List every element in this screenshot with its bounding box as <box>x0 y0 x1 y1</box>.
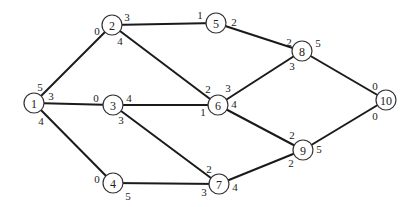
node-label: 7 <box>216 178 222 192</box>
weight-label: 2 <box>289 129 295 141</box>
weight-label: 2 <box>231 16 237 28</box>
weight-label: 3 <box>225 82 231 94</box>
weight-label: 0 <box>93 92 99 104</box>
weight-label: 2 <box>205 83 211 95</box>
weight-label: 4 <box>126 92 132 104</box>
weight-label: 3 <box>48 90 54 102</box>
edge-1-2 <box>34 25 112 103</box>
node-9: 9 <box>293 140 313 160</box>
weight-label: 3 <box>289 60 295 72</box>
weight-label: 4 <box>232 181 238 193</box>
node-10: 10 <box>376 90 396 110</box>
weight-label: 0 <box>94 25 100 37</box>
node-label: 5 <box>213 17 219 31</box>
edge-4-7 <box>113 183 219 184</box>
weight-label: 5 <box>125 190 131 202</box>
edge-6-9 <box>218 105 303 150</box>
weight-label: 5 <box>315 37 321 49</box>
weight-label: 1 <box>197 9 203 21</box>
node-label: 1 <box>31 97 37 111</box>
node-3: 3 <box>103 95 123 115</box>
weight-label: 0 <box>94 173 100 185</box>
weight-label: 1 <box>200 106 206 118</box>
node-label: 8 <box>299 45 305 59</box>
edge-1-4 <box>34 103 113 183</box>
node-label: 9 <box>300 144 306 158</box>
node-label: 10 <box>380 94 392 108</box>
weight-label: 0 <box>372 80 378 92</box>
weight-label: 2 <box>286 36 292 48</box>
weight-label: 4 <box>38 115 44 127</box>
edge-8-10 <box>302 51 386 100</box>
weight-label: 2 <box>206 163 212 175</box>
weight-label: 4 <box>231 98 237 110</box>
weight-label: 3 <box>124 11 130 23</box>
network-diagram: 12345678910 5340340430512231423423522500 <box>0 0 415 207</box>
node-8: 8 <box>292 41 312 61</box>
weight-label: 3 <box>201 186 207 198</box>
weight-label: 2 <box>288 157 294 169</box>
node-7: 7 <box>209 174 229 194</box>
node-2: 2 <box>102 15 122 35</box>
node-label: 3 <box>110 99 116 113</box>
node-5: 5 <box>206 13 226 33</box>
edge-2-5 <box>112 23 216 25</box>
node-6: 6 <box>208 95 228 115</box>
weight-label: 5 <box>37 81 43 93</box>
weight-label: 4 <box>117 35 123 47</box>
edge-1-3 <box>34 103 113 105</box>
node-1: 1 <box>24 93 44 113</box>
node-label: 4 <box>110 177 116 191</box>
weight-label: 0 <box>372 110 378 122</box>
weight-label: 5 <box>316 143 322 155</box>
node-4: 4 <box>103 173 123 193</box>
weight-label: 3 <box>118 114 124 126</box>
node-label: 6 <box>215 99 221 113</box>
node-label: 2 <box>109 19 115 33</box>
